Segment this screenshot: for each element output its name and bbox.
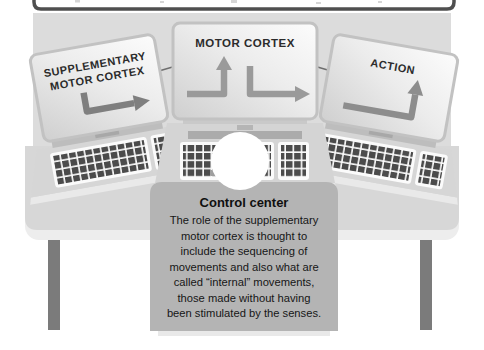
scene: SUPPLEMENTARY MOTOR CORTEX ACTION [0,0,484,350]
desk-leg-right [420,240,432,330]
screen-label: MOTOR CORTEX [195,37,295,49]
desk-leg-left [48,240,60,330]
control-center-text-line: those made without having [177,292,310,304]
white-circle [211,132,269,190]
control-center-text-line: called “internal” movements, [174,276,315,288]
panel-shadow [158,331,330,336]
whiteboard-frame [34,0,454,9]
control-room-illustration: SUPPLEMENTARY MOTOR CORTEX ACTION [0,0,484,350]
control-center-text-line: include the sequencing of [181,245,309,257]
control-center-text-line: The role of the supplementary [170,214,319,226]
whiteboard-bottom [34,0,454,9]
laptop-hinge-notch [237,125,253,130]
whiteboard-faint-marks [75,0,382,4]
control-center-text-line: motor cortex is thought to [181,230,307,242]
control-center-text-line: movements and also what are [169,261,318,273]
control-center-title: Control center [200,195,289,210]
keyboard-numpad-keys [281,145,306,177]
control-center-panel: Control center The role of the supplemen… [150,182,338,336]
control-center-text-line: been stimulated by the senses. [167,307,321,319]
